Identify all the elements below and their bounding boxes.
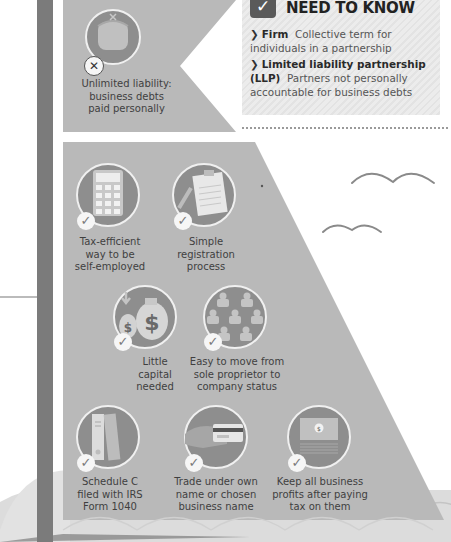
definition-llp: ❯Limited liability partnership (LLP) Par…: [250, 57, 445, 99]
svg-text:$: $: [317, 425, 321, 432]
chevron-right-icon: ❯: [250, 58, 259, 70]
check-icon: ✓: [185, 454, 203, 472]
check-icon: ✓: [174, 212, 192, 230]
benefit-label: Tax-efficientway to beself-employed: [68, 236, 152, 274]
benefit-label: Schedule Cfiled with IRSForm 1040: [68, 476, 152, 514]
check-icon: ✓: [288, 454, 306, 472]
check-icon: ✓: [204, 333, 222, 351]
svg-text:$: $: [144, 310, 159, 335]
check-icon: ✓: [77, 212, 95, 230]
need-to-know-box: ✓ NEED TO KNOW ❯Firm Collective term for…: [242, 0, 451, 135]
top-panel-label: Unlimited liability: business debts paid…: [64, 78, 189, 116]
need-to-know-title: NEED TO KNOW: [286, 0, 415, 16]
cross-icon: ✕: [84, 56, 104, 76]
benefit-label: Trade under ownname or chosenbusiness na…: [166, 476, 266, 514]
benefit-label: Keep all businessprofits after payingtax…: [266, 476, 374, 514]
check-icon: ✓: [250, 0, 276, 18]
check-icon: ✓: [114, 333, 132, 351]
chevron-right-icon: ❯: [250, 28, 259, 40]
dotted-divider: [242, 127, 448, 129]
book-spine: [37, 0, 53, 542]
benefit-label: Littlecapitalneeded: [120, 356, 190, 394]
birds-icon: [323, 174, 434, 232]
benefit-label: Simpleregistrationprocess: [164, 236, 248, 274]
definition-firm: ❯Firm Collective term for individuals in…: [250, 27, 445, 55]
check-icon: ✓: [77, 454, 95, 472]
benefit-label: Easy to move fromsole proprietor tocompa…: [182, 356, 292, 394]
